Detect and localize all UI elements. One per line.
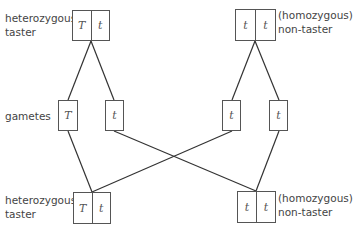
gametes-label: gametes [5,109,51,123]
allele: t [106,101,123,130]
parent-left-genotype: T t [72,10,110,41]
gamete-box: t [222,100,241,131]
allele: t [223,101,240,130]
offspring-left-genotype: T t [73,192,111,224]
parent-left-label: heterozygous taster [5,11,76,39]
offspring-left-label: heterozygous taster [5,193,76,221]
allele: t [256,192,275,222]
gamete-box: T [58,100,78,131]
parent-right-label: (homozygous) non-taster [278,8,353,36]
allele: t [92,193,111,223]
offspring-right-label: (homozygous) non-taster [278,191,353,219]
gamete-box: t [269,100,288,131]
allele: t [236,10,255,40]
allele: t [255,10,275,40]
allele: T [59,101,77,130]
allele: T [73,11,91,40]
parent-right-genotype: t t [235,9,276,41]
allele: t [91,11,110,40]
offspring-right-genotype: t t [237,191,276,223]
allele: t [238,192,256,222]
allele: t [270,101,287,130]
gamete-box: t [105,100,124,131]
allele: T [74,193,92,223]
